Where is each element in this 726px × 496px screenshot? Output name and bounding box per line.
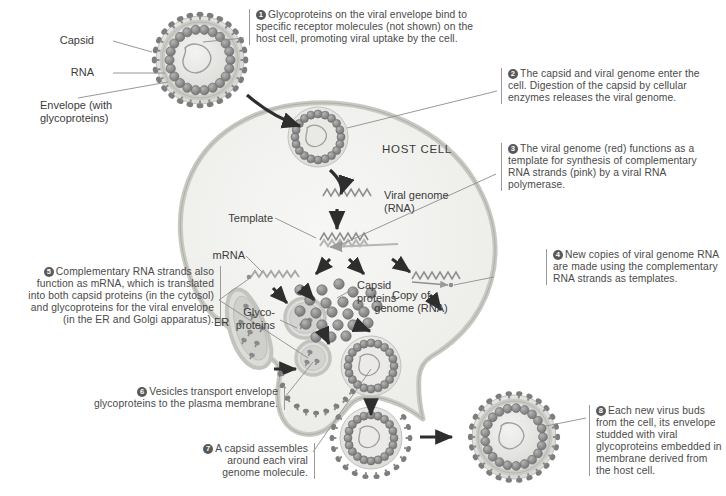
callout-step-8: 8Each new virus buds from the cell, its …: [589, 405, 724, 476]
label-envelope: Envelope (with glycoproteins): [40, 99, 112, 125]
step-number-7: 7: [203, 444, 213, 454]
step-text-1: Glycoproteins on the viral envelope bind…: [256, 9, 473, 44]
label-template: Template: [228, 212, 273, 225]
step-number-1: 1: [256, 10, 266, 20]
label-viral-genome: Viral genome (RNA): [384, 189, 449, 215]
step-text-6: Vesicles transport envelope glycoprotein…: [94, 386, 278, 409]
virus-particle-entering: [288, 107, 348, 167]
step-number-2: 2: [508, 69, 518, 79]
label-glycoproteins: Glyco- proteins: [236, 306, 275, 332]
callout-step-3: 3The viral genome (red) functions as a t…: [501, 143, 712, 191]
step-text-5: Complementary RNA strands also function …: [28, 266, 214, 325]
virus-particle-free: [152, 12, 249, 109]
label-capsid: Capsid: [60, 34, 94, 47]
callout-step-4: 4New copies of viral genome RNA are made…: [546, 249, 719, 285]
step-text-4: New copies of viral genome RNA are made …: [553, 249, 719, 284]
callout-step-7: 7A capsid assembles around each viral ge…: [196, 443, 315, 479]
step-number-5: 5: [44, 267, 54, 277]
step-number-4: 4: [553, 250, 563, 260]
step-text-2: The capsid and viral genome enter the ce…: [508, 68, 700, 103]
callout-step-2: 2The capsid and viral genome enter the c…: [501, 68, 714, 104]
virion-released: [468, 391, 560, 483]
step-number-3: 3: [508, 144, 518, 154]
step-text-3: The viral genome (red) functions as a te…: [508, 143, 697, 190]
virion-assembled: [341, 336, 401, 396]
callout-step-1: 1Glycoproteins on the viral envelope bin…: [249, 9, 484, 45]
viral-replication-diagram: Capsid RNA Envelope (with glycoproteins)…: [0, 0, 726, 496]
callout-step-5: 5Complementary RNA strands also function…: [22, 266, 221, 326]
label-host-cell: HOST CELL: [382, 143, 452, 156]
step-text-7: A capsid assembles around each viral gen…: [215, 443, 308, 478]
step-number-6: 6: [137, 387, 147, 397]
label-copy-of-genome: Copy of genome (RNA): [374, 289, 447, 315]
leader-capsid: [113, 41, 152, 52]
leader-envelope: [78, 82, 168, 98]
step-text-8: Each new virus buds from the cell, its e…: [596, 405, 722, 476]
callout-step-6: 6Vesicles transport envelope glycoprotei…: [90, 386, 285, 410]
step-number-8: 8: [596, 406, 606, 416]
label-rna: RNA: [71, 66, 94, 79]
label-mrna: mRNA: [213, 249, 245, 262]
